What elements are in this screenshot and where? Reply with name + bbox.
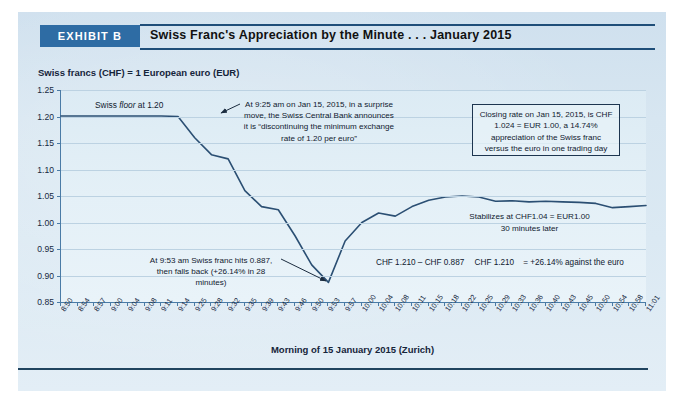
y-tick-mark [57, 276, 61, 277]
annotation-floor-emphasis: floor [119, 100, 135, 110]
y-tick-mark [57, 90, 61, 91]
y-tick-label: 1.20 [28, 112, 54, 122]
y-tick-mark [57, 223, 61, 224]
annotation-closing-rate-box: Closing rate on Jan 15, 2015, is CHF 1.0… [472, 104, 620, 156]
annotation-trough: At 9:53 am Swiss franc hits 0.887, then … [143, 255, 279, 289]
page-title: Swiss Franc's Appreciation by the Minute… [150, 28, 512, 42]
y-axis-title: Swiss francs (CHF) = 1 European euro (EU… [38, 67, 239, 78]
header-rule-top [140, 24, 655, 26]
annotation-stabilizes-line1: Stabilizes at CHF1.04 = EUR1.00 [452, 211, 607, 222]
bottom-rule [18, 368, 648, 370]
y-tick-mark [57, 196, 61, 197]
y-tick-label: 1.05 [28, 191, 54, 201]
gridline [61, 170, 646, 171]
exhibit-tag: EXHIBIT B [40, 25, 140, 47]
y-tick-label: 1.25 [28, 85, 54, 95]
gridline [61, 196, 646, 197]
formula-numerator: CHF 1.210 – CHF 0.887 [372, 258, 468, 268]
annotation-floor-prefix: Swiss [95, 100, 119, 110]
y-tick-label: 1.00 [28, 218, 54, 228]
y-tick-mark [57, 117, 61, 118]
y-tick-label: 0.85 [28, 297, 54, 307]
y-tick-mark [57, 249, 61, 250]
annotation-floor: Swiss floor at 1.20 [95, 100, 163, 110]
header-rule-bottom [140, 48, 655, 50]
exhibit-figure: EXHIBIT B Swiss Franc's Appreciation by … [0, 0, 685, 403]
formula-fraction: CHF 1.210 – CHF 0.887 CHF 1.210 [372, 258, 518, 267]
y-tick-label: 0.90 [28, 271, 54, 281]
y-tick-label: 1.15 [28, 138, 54, 148]
formula-denominator: CHF 1.210 [471, 257, 519, 267]
y-tick-mark [57, 170, 61, 171]
formula-result: = +26.14% against the euro [523, 258, 624, 267]
y-tick-label: 1.10 [28, 165, 54, 175]
x-axis-title: Morning of 15 January 2015 (Zurich) [60, 344, 645, 355]
y-tick-mark [57, 143, 61, 144]
annotation-snb-announcement: At 9:25 am on Jan 15, 2015, in a surpris… [243, 99, 395, 144]
gridline [61, 90, 646, 91]
gridline [61, 249, 646, 250]
annotation-formula: CHF 1.210 – CHF 0.887 CHF 1.210 = +26.14… [372, 258, 624, 267]
annotation-floor-suffix: at 1.20 [136, 100, 164, 110]
annotation-stabilizes-line2: 30 minutes later [452, 223, 607, 234]
y-tick-label: 0.95 [28, 244, 54, 254]
